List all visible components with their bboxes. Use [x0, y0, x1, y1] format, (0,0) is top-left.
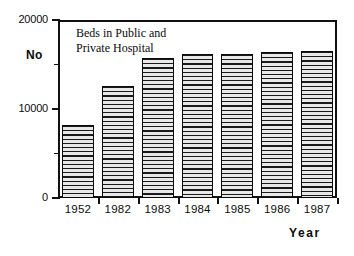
y-axis-title: No [26, 48, 43, 62]
y-axis-tick-20000 [52, 19, 60, 21]
y-axis-minor-tick-5000 [54, 153, 59, 154]
bar-chart-figure: 0 10000 20000 No Beds in Public and Priv… [0, 0, 354, 256]
plot-title-line-1: Beds in Public and [76, 26, 166, 41]
bar-1987 [301, 51, 333, 198]
x-axis-label-1983: 1983 [138, 203, 178, 216]
y-axis-tick-0 [52, 197, 60, 199]
y-axis-minor-tick-15000 [54, 64, 59, 65]
bar-1983 [142, 58, 174, 198]
x-axis-tick-6 [337, 198, 339, 204]
plot-title: Beds in Public and Private Hospital [76, 26, 166, 56]
x-axis-label-1987: 1987 [297, 203, 337, 216]
bar-1952 [62, 125, 94, 198]
y-axis-label-10000: 10000 [18, 103, 48, 114]
x-axis-label-1986: 1986 [257, 203, 297, 216]
x-axis-title: Year [289, 226, 321, 240]
bar-1984 [182, 54, 214, 198]
bar-1982 [102, 86, 134, 198]
y-axis-tick-10000 [52, 108, 60, 110]
x-axis-label-1984: 1984 [178, 203, 218, 216]
y-axis-label-20000: 20000 [18, 14, 48, 25]
plot-title-line-2: Private Hospital [76, 41, 166, 56]
x-axis-label-1952: 1952 [58, 203, 98, 216]
bar-1985 [221, 54, 253, 198]
y-axis-label-0: 0 [42, 192, 48, 203]
x-axis-label-1985: 1985 [217, 203, 257, 216]
bar-1986 [261, 52, 293, 198]
x-axis-label-1982: 1982 [98, 203, 138, 216]
